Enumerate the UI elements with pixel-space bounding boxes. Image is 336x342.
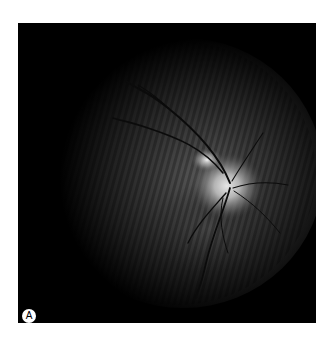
fundus-image-panel: A — [18, 23, 316, 323]
fundus-photograph — [18, 23, 316, 323]
panel-label-badge: A — [22, 309, 36, 323]
